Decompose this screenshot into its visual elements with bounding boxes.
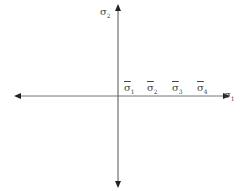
up-arrow-icon bbox=[115, 4, 121, 11]
left-arrow-icon bbox=[14, 93, 21, 99]
mark-sigma-bar-3: σ3 bbox=[172, 83, 183, 97]
mark-sigma-bar-4: σ4 bbox=[197, 83, 208, 97]
horizontal-axis-label: σ1 bbox=[224, 90, 235, 104]
mark-sigma-bar-1: σ1 bbox=[124, 83, 135, 97]
down-arrow-icon bbox=[115, 181, 121, 188]
vertical-axis-label: σ2 bbox=[100, 7, 111, 21]
mark-sigma-bar-2: σ2 bbox=[147, 83, 158, 97]
